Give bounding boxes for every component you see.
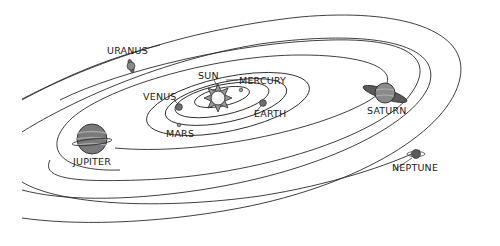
label-mercury: MERCURY bbox=[239, 76, 286, 86]
saturn-icon bbox=[362, 82, 409, 106]
label-uranus: URANUS bbox=[107, 46, 148, 56]
label-venus: VENUS bbox=[143, 92, 177, 102]
uranus-icon bbox=[127, 59, 135, 74]
orbits-layer bbox=[0, 0, 500, 246]
label-jupiter: JUPITER bbox=[73, 157, 111, 167]
sun-icon bbox=[204, 84, 232, 112]
venus-icon bbox=[176, 104, 183, 111]
mercury-icon bbox=[239, 88, 243, 92]
label-sun: SUN bbox=[198, 71, 219, 81]
solar-system-diagram: SUN MERCURY VENUS EARTH MARS JUPITER SAT… bbox=[0, 0, 500, 246]
label-earth: EARTH bbox=[254, 109, 286, 119]
orbit-uranus bbox=[22, 38, 431, 198]
mars-icon bbox=[177, 123, 181, 127]
label-saturn: SATURN bbox=[367, 106, 407, 116]
neptune-icon bbox=[407, 150, 425, 159]
earth-icon bbox=[260, 100, 267, 107]
label-mars: MARS bbox=[166, 129, 194, 139]
jupiter-icon bbox=[72, 124, 112, 154]
label-neptune: NEPTUNE bbox=[392, 163, 438, 173]
